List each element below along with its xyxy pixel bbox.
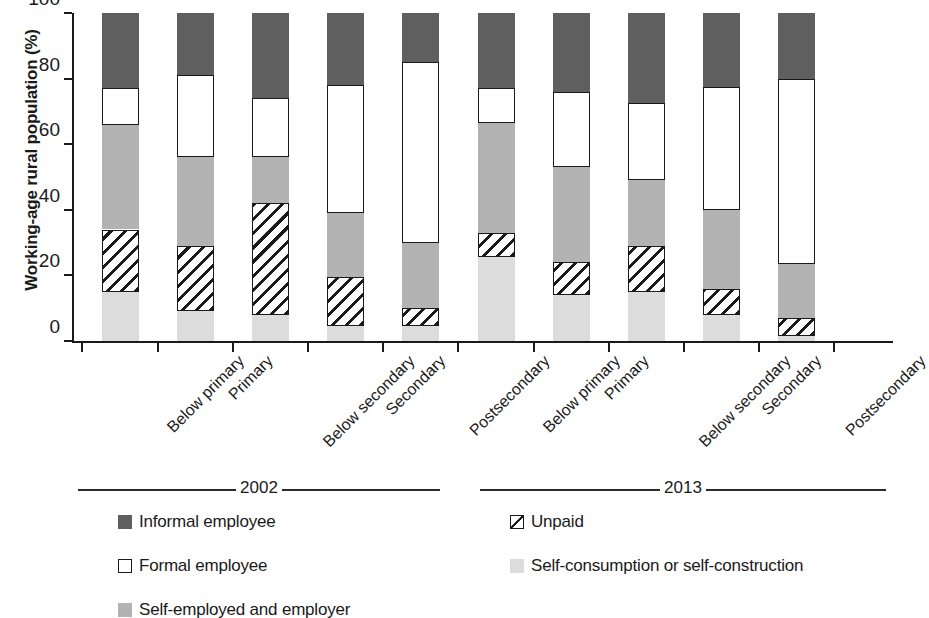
bar-4-secondary xyxy=(327,13,364,341)
plot-area xyxy=(72,13,893,341)
bar-segment-formal-employee xyxy=(703,87,740,210)
bar-segment-unpaid xyxy=(102,230,139,292)
x-axis-tick-0 xyxy=(81,343,83,352)
bar-segment-self-consumption xyxy=(553,295,590,341)
bar-segment-informal-employee xyxy=(327,13,364,85)
bar-segment-unpaid xyxy=(327,277,364,326)
x-axis-label-10: Postsecondary xyxy=(842,352,929,440)
y-axis-tick-60 xyxy=(64,143,72,145)
legend-label-formal: Formal employee xyxy=(139,556,267,576)
legend-item-selfemp[interactable]: Self-employed and employer xyxy=(118,600,350,618)
bar-segment-informal-employee xyxy=(553,13,590,92)
y-axis-tick-label-80: 80 xyxy=(39,54,60,76)
y-axis-tick-label-60: 60 xyxy=(39,119,60,141)
bar-segment-self-consumption xyxy=(327,326,364,341)
bar-segment-self-consumption xyxy=(628,292,665,341)
self-consumption-swatch-icon xyxy=(510,559,524,573)
bar-segment-unpaid xyxy=(628,246,665,292)
bar-segment-self-employed xyxy=(478,123,515,233)
bar-segment-self-consumption xyxy=(402,326,439,341)
x-axis-tick-4 xyxy=(382,343,384,352)
bar-segment-self-employed xyxy=(628,180,665,246)
bar-8-below-secondary xyxy=(628,13,665,341)
self-employed-swatch-icon xyxy=(118,603,132,617)
bar-segment-formal-employee xyxy=(628,103,665,180)
legend-item-unpaid[interactable]: Unpaid xyxy=(510,512,584,532)
bar-segment-self-consumption xyxy=(102,292,139,341)
bar-segment-formal-employee xyxy=(553,92,590,167)
bar-segment-unpaid xyxy=(553,262,590,295)
bar-10-postsecondary xyxy=(778,13,815,341)
informal-swatch-icon xyxy=(118,515,132,529)
bar-segment-self-consumption xyxy=(252,315,289,341)
bar-segment-self-consumption xyxy=(778,336,815,341)
bar-segment-informal-employee xyxy=(478,13,515,88)
x-axis-tick-7 xyxy=(608,343,610,352)
x-axis-tick-5 xyxy=(457,343,459,352)
bar-segment-formal-employee xyxy=(402,62,439,242)
bar-segment-formal-employee xyxy=(478,88,515,122)
bar-segment-informal-employee xyxy=(703,13,740,87)
legend-label-informal: Informal employee xyxy=(139,512,275,532)
y-axis-tick-label-20: 20 xyxy=(39,250,60,272)
y-axis-tick-40 xyxy=(64,209,72,211)
legend-item-selfcons[interactable]: Self-consumption or self-construction xyxy=(510,556,803,576)
bar-segment-self-employed xyxy=(102,125,139,230)
x-axis-tick-6 xyxy=(533,343,535,352)
y-axis-tick-label-40: 40 xyxy=(39,185,60,207)
x-axis-tick-1 xyxy=(157,343,159,352)
x-axis-tick-8 xyxy=(683,343,685,352)
bar-segment-formal-employee xyxy=(102,88,139,124)
x-axis-tick-2 xyxy=(232,343,234,352)
group-line-right-2002 xyxy=(282,489,440,491)
bar-segment-self-employed xyxy=(252,157,289,203)
bar-segment-formal-employee xyxy=(252,98,289,157)
y-axis-tick-label-0: 0 xyxy=(49,316,60,338)
legend-item-informal[interactable]: Informal employee xyxy=(118,512,275,532)
bar-segment-self-employed xyxy=(402,243,439,309)
bar-segment-self-employed xyxy=(778,264,815,318)
x-axis-line xyxy=(72,341,893,343)
bar-segment-formal-employee xyxy=(327,85,364,213)
bar-segment-formal-employee xyxy=(177,75,214,157)
group-label-2002: 2002 xyxy=(236,478,282,498)
bar-segment-self-consumption xyxy=(703,315,740,341)
bar-2-primary xyxy=(177,13,214,341)
bar-3-below-secondary xyxy=(252,13,289,341)
legend-label-selfcons: Self-consumption or self-construction xyxy=(531,556,803,576)
bar-segment-self-consumption xyxy=(478,257,515,341)
chart-legend: Informal employeeUnpaidFormal employeeSe… xyxy=(118,512,878,612)
y-axis-tick-80 xyxy=(64,78,72,80)
bar-segment-informal-employee xyxy=(177,13,214,75)
bar-segment-informal-employee xyxy=(628,13,665,103)
unpaid-swatch-icon xyxy=(510,515,524,529)
legend-item-formal[interactable]: Formal employee xyxy=(118,556,267,576)
group-separator-row: 20022013 xyxy=(0,478,897,506)
y-axis-tick-100 xyxy=(64,12,72,14)
x-axis-tick-9 xyxy=(758,343,760,352)
y-axis-tick-0 xyxy=(64,340,72,342)
group-line-right-2013 xyxy=(706,489,886,491)
bar-segment-self-employed xyxy=(553,167,590,262)
x-axis-label-5: Postsecondary xyxy=(466,352,554,440)
formal-swatch-icon xyxy=(118,559,132,573)
bar-segment-formal-employee xyxy=(778,79,815,264)
bar-segment-self-employed xyxy=(327,213,364,277)
group-line-left-2013 xyxy=(480,489,660,491)
bar-segment-unpaid xyxy=(177,246,214,312)
x-axis-tick-10 xyxy=(833,343,835,352)
bar-6-below-primary xyxy=(478,13,515,341)
bar-segment-unpaid xyxy=(478,233,515,258)
bar-7-primary xyxy=(553,13,590,341)
bar-segment-informal-employee xyxy=(778,13,815,79)
bar-segment-unpaid xyxy=(402,308,439,326)
bar-1-below-primary xyxy=(102,13,139,341)
y-axis-line xyxy=(72,13,74,341)
group-line-left-2002 xyxy=(78,489,236,491)
x-axis-tick-3 xyxy=(307,343,309,352)
bar-segment-informal-employee xyxy=(102,13,139,88)
bar-9-secondary xyxy=(703,13,740,341)
legend-label-unpaid: Unpaid xyxy=(531,512,584,532)
bar-segment-self-employed xyxy=(177,157,214,246)
